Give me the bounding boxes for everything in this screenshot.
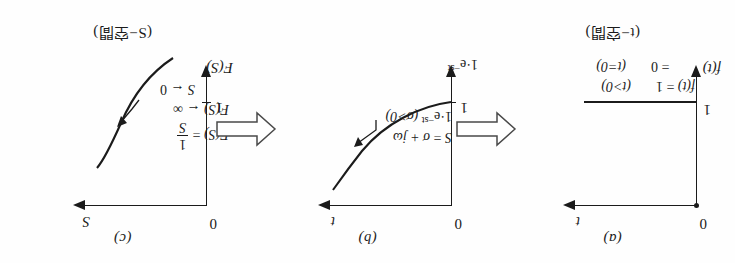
panel-a-t-axis-arrowhead — [563, 200, 575, 210]
panel-a-equations: f(t) = 1 (t>0) = 0 (t=0) — [596, 55, 695, 96]
panel-c-ann1-rel: = — [193, 127, 201, 142]
panel-c-domain-label: (S−空間) — [0, 24, 245, 45]
panel-a-t-axis-label: t — [576, 213, 580, 230]
panel-c-ann1-denominator: S — [177, 119, 188, 135]
panel-a-eq2-rel: = — [662, 59, 670, 74]
panel-a-eq1-rel: = — [666, 79, 674, 94]
panel-a-equation-row: = 0 (t=0) — [596, 55, 695, 75]
panel-c-annotation-line: S ← 0 — [160, 79, 229, 99]
panel-b-ann1-rel: = — [434, 130, 442, 145]
panel-a-unit-step-line — [584, 101, 696, 103]
scanned-figure-page: (a) t 0 f(t) 1 f(t) = 1 (t>0) = — [0, 0, 735, 263]
panel-c-ann1-numerator: 1 — [177, 135, 188, 151]
panel-a-eq2-rhs: 0 — [651, 59, 658, 74]
panel-c-ann3-lhs: S — [188, 82, 195, 97]
panel-a-domain-label: (t−空間) — [490, 24, 735, 45]
panel-a: (a) t 0 f(t) 1 f(t) = 1 (t>0) = — [490, 0, 735, 263]
panel-a-f-axis-label: f(t) — [703, 60, 721, 77]
panel-a-equation-row: f(t) = 1 (t>0) — [596, 76, 695, 96]
panel-a-eq2-cond: (t=0) — [596, 59, 626, 74]
panel-a-eq1-lhs: f(t) — [678, 79, 695, 94]
panel-c-ann3-arrow-icon: ← — [171, 82, 185, 97]
panel-b-ann2-expr: 1·e — [434, 109, 452, 124]
panel-b-annotation-leader — [245, 0, 490, 263]
panel-a-eq1-cond: (t>0) — [601, 79, 631, 94]
panel-a-eq1-rhs: 1 — [656, 79, 663, 94]
panel-a-vertical-axis — [696, 73, 697, 206]
panel-a-horizontal-axis — [570, 205, 697, 206]
panel-b-annotation: S = σ + jω 1·e−st (σ>0) — [386, 105, 452, 147]
panel-c-ann3-rhs: 0 — [160, 82, 167, 97]
panel-b-ann1-lhs: S — [445, 130, 452, 145]
panel-a-caption: (a) — [490, 230, 735, 247]
panel-a-tick-label: 1 — [704, 101, 712, 118]
panel-b-ann2-exponent: −st — [422, 115, 434, 126]
arrow-a-to-b-icon — [455, 107, 517, 151]
panel-c-ann1-fraction: 1 S — [177, 119, 188, 151]
panel-a-origin-label: 0 — [700, 215, 708, 232]
panel-b: (b) t 0 1·e−st 1 S = σ + jω — [245, 0, 490, 263]
panel-c-ann2-arrow-icon: ← — [187, 102, 201, 117]
panel-b-ann1-rhs: σ + jω — [393, 130, 430, 145]
panel-c-ann2-rhs: ∞ — [173, 102, 183, 117]
panel-b-ann2-cond: (σ>0) — [386, 109, 419, 124]
arrow-b-to-c-icon — [215, 107, 277, 151]
panel-c: (c) S 0 F(S) 1 F(S) = 1 — [0, 0, 245, 263]
panel-b-annotation-line: 1·e−st (σ>0) — [386, 105, 452, 126]
panel-b-annotation-line: S = σ + jω — [386, 127, 452, 147]
